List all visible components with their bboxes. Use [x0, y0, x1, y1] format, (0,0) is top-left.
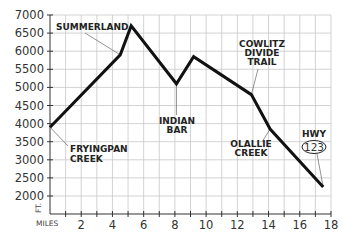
label-fryingpan-2: CREEK: [70, 154, 104, 164]
y-tick-label: 3000: [15, 153, 44, 167]
x-tick-label: 16: [292, 218, 307, 232]
grid: [50, 15, 331, 214]
y-axis-ticks: 7000650060005500500045004000350030002500…: [15, 8, 53, 203]
y-tick-label: 6500: [15, 26, 44, 40]
y-tick-label: 4500: [15, 99, 44, 113]
x-tick-label: 6: [140, 218, 147, 232]
y-tick-label: 5500: [15, 62, 44, 76]
label-indian-2: BAR: [167, 125, 188, 135]
x-axis-label: MILES: [36, 219, 59, 228]
y-tick-label: 6000: [15, 44, 44, 58]
label-hwy-number: 123: [304, 141, 324, 153]
label-cowlitz-3: TRAIL: [247, 57, 276, 67]
x-tick-label: 2: [78, 218, 85, 232]
y-tick-label: 2500: [15, 171, 44, 185]
label-summerland: SUMMERLAND: [56, 22, 128, 32]
label-olallie-2: CREEK: [235, 148, 269, 158]
x-tick-label: 12: [230, 218, 245, 232]
label-fryingpan-1: FRYINGPAN: [70, 144, 128, 154]
y-tick-label: 7000: [15, 8, 44, 22]
x-tick-label: 4: [109, 218, 116, 232]
label-hwy: HWY: [302, 129, 326, 139]
y-tick-label: 5000: [15, 80, 44, 94]
y-tick-label: 3500: [15, 135, 44, 149]
elevation-chart: 7000650060005500500045004000350030002500…: [0, 0, 354, 243]
y-tick-label: 2000: [15, 189, 44, 203]
y-tick-label: 4000: [15, 117, 44, 131]
x-tick-label: 8: [171, 218, 178, 232]
x-tick-label: 10: [199, 218, 214, 232]
x-tick-label: 14: [261, 218, 276, 232]
y-axis-label: FT.: [34, 203, 43, 213]
x-tick-label: 18: [324, 218, 339, 232]
